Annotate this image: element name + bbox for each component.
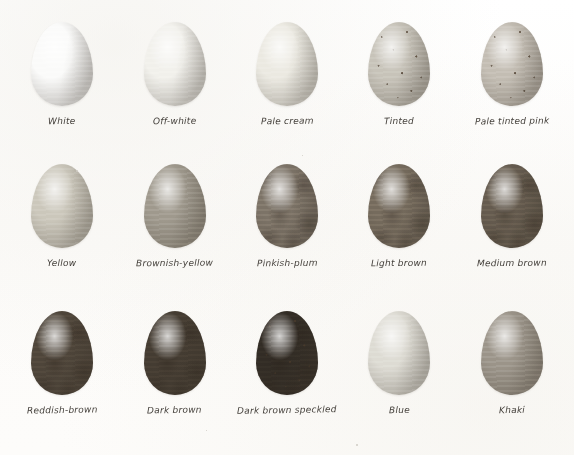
egg-image	[31, 311, 93, 395]
egg-specimen	[28, 18, 96, 110]
egg-image	[31, 164, 93, 248]
scan-banding	[368, 164, 430, 248]
egg-image	[256, 22, 318, 106]
scan-banding	[481, 311, 543, 395]
scan-banding	[31, 22, 93, 106]
egg-label: Brownish-yellow	[136, 258, 213, 268]
egg-label: Pale tinted pink	[475, 117, 549, 128]
egg-image	[481, 164, 543, 248]
egg-label: Tinted	[384, 117, 414, 127]
scan-banding	[31, 164, 93, 248]
egg-label: Reddish-brown	[27, 406, 98, 417]
egg-label: Pale cream	[261, 117, 314, 128]
scan-banding	[481, 22, 543, 106]
egg-cell: Reddish-brown	[6, 303, 118, 451]
egg-label: Yellow	[47, 259, 76, 269]
egg-image	[368, 22, 430, 106]
egg-label: Pinkish-plum	[257, 258, 318, 268]
scan-banding	[481, 164, 543, 248]
scan-banding	[368, 22, 430, 106]
egg-image	[144, 22, 206, 106]
egg-image	[144, 311, 206, 395]
egg-cell: Off-white	[118, 8, 230, 156]
scan-banding	[144, 311, 206, 395]
egg-specimen	[478, 18, 546, 110]
egg-specimen	[365, 18, 433, 110]
egg-cell: Pale cream	[231, 8, 343, 156]
egg-label: Blue	[389, 406, 410, 416]
egg-cell: Tinted	[343, 8, 455, 156]
egg-image	[144, 164, 206, 248]
scan-banding	[256, 22, 318, 106]
egg-specimen	[141, 307, 209, 399]
egg-colour-chart: WhiteOff-whitePale creamTintedPale tinte…	[0, 0, 574, 455]
egg-cell: White	[6, 8, 118, 156]
egg-cell: Khaki	[456, 303, 568, 451]
egg-image	[481, 311, 543, 395]
scan-banding	[144, 164, 206, 248]
egg-cell: Yellow	[6, 156, 118, 304]
egg-label: Dark brown speckled	[237, 405, 337, 417]
scan-banding	[31, 311, 93, 395]
egg-cell: Medium brown	[456, 156, 568, 304]
egg-specimen	[478, 160, 546, 252]
scan-banding	[368, 311, 430, 395]
egg-cell: Dark brown speckled	[231, 303, 343, 451]
egg-label: Light brown	[371, 258, 427, 268]
egg-label: Khaki	[499, 406, 525, 416]
scan-banding	[144, 22, 206, 106]
egg-specimen	[253, 160, 321, 252]
egg-cell: Light brown	[343, 156, 455, 304]
egg-specimen	[253, 307, 321, 399]
egg-specimen	[141, 160, 209, 252]
egg-specimen	[141, 18, 209, 110]
egg-image	[481, 22, 543, 106]
egg-cell: Pinkish-plum	[231, 156, 343, 304]
egg-image	[31, 22, 93, 106]
egg-label: Medium brown	[477, 258, 547, 268]
egg-label: Off-white	[153, 117, 197, 127]
egg-cell: Pale tinted pink	[456, 8, 568, 156]
egg-specimen	[365, 160, 433, 252]
egg-image	[368, 311, 430, 395]
egg-grid: WhiteOff-whitePale creamTintedPale tinte…	[0, 0, 574, 455]
egg-specimen	[28, 160, 96, 252]
scan-banding	[256, 311, 318, 395]
egg-label: Dark brown	[147, 406, 202, 417]
egg-specimen	[365, 307, 433, 399]
egg-specimen	[253, 18, 321, 110]
egg-cell: Blue	[343, 303, 455, 451]
scan-banding	[256, 164, 318, 248]
egg-image	[368, 164, 430, 248]
egg-cell: Brownish-yellow	[118, 156, 230, 304]
egg-image	[256, 164, 318, 248]
egg-cell: Dark brown	[118, 303, 230, 451]
egg-label: White	[48, 117, 76, 127]
egg-image	[256, 311, 318, 395]
egg-specimen	[28, 307, 96, 399]
egg-specimen	[478, 307, 546, 399]
